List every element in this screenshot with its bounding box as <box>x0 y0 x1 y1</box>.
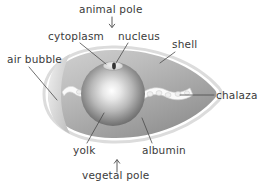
label-nucleus: nucleus <box>118 31 160 42</box>
label-chalaza: chalaza <box>216 90 258 101</box>
egg-structure-diagram: animal pole cytoplasm nucleus shell air … <box>0 0 261 189</box>
label-air-bubble: air bubble <box>7 54 62 65</box>
label-cytoplasm: cytoplasm <box>48 31 104 42</box>
animal-pole-arrow-icon <box>109 17 114 28</box>
yolk-sphere <box>81 62 145 126</box>
label-vegetal-pole: vegetal pole <box>82 170 149 181</box>
nucleus-dot <box>112 63 116 70</box>
label-albumin: albumin <box>142 145 186 156</box>
label-yolk: yolk <box>73 145 95 156</box>
label-animal-pole: animal pole <box>79 4 143 15</box>
label-shell: shell <box>172 39 197 50</box>
